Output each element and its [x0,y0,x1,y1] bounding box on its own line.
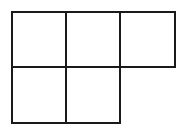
grid-cell-r2c1 [11,66,67,124]
grid-cell-r1c2 [65,11,121,68]
grid-cell-r1c3 [119,11,176,68]
grid-cell-r2c2 [65,66,121,124]
grid-cell-r1c1 [11,11,67,68]
square-grid-diagram [0,0,182,130]
